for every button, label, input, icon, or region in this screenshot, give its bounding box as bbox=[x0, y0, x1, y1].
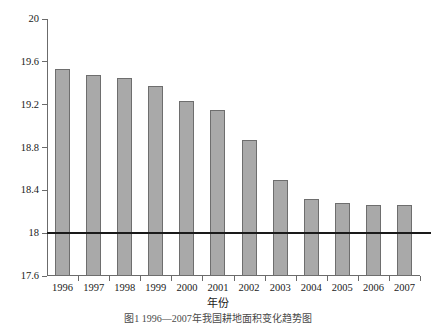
bar bbox=[86, 75, 101, 276]
y-tick-mark bbox=[42, 147, 47, 148]
x-tick-mark bbox=[202, 276, 203, 281]
x-tick-mark bbox=[140, 276, 141, 281]
bar bbox=[273, 180, 288, 276]
y-tick-label: 18 bbox=[0, 228, 39, 239]
y-tick-mark bbox=[42, 19, 47, 20]
x-tick-mark bbox=[109, 276, 110, 281]
bar bbox=[179, 101, 194, 276]
x-tick-mark bbox=[358, 276, 359, 281]
figure-caption: 图1 1996—2007年我国耕地面积变化趋势图 bbox=[0, 313, 436, 324]
y-tick-mark bbox=[42, 190, 47, 191]
bar bbox=[55, 69, 70, 276]
bar bbox=[397, 205, 412, 276]
reference-line bbox=[47, 232, 431, 234]
x-tick-label: 2007 bbox=[384, 283, 424, 294]
x-tick-mark bbox=[265, 276, 266, 281]
x-tick-mark bbox=[389, 276, 390, 281]
x-tick-mark bbox=[327, 276, 328, 281]
x-tick-mark bbox=[171, 276, 172, 281]
y-tick-label: 19.6 bbox=[0, 57, 39, 68]
y-tick-label: 20 bbox=[0, 14, 39, 25]
bar bbox=[304, 199, 319, 276]
y-tick-mark bbox=[42, 104, 47, 105]
bar bbox=[335, 203, 350, 276]
x-tick-mark bbox=[234, 276, 235, 281]
y-tick-label: 17.6 bbox=[0, 271, 39, 282]
x-tick-mark bbox=[78, 276, 79, 281]
x-tick-mark bbox=[420, 276, 421, 281]
x-tick-mark bbox=[296, 276, 297, 281]
bar bbox=[366, 205, 381, 276]
y-tick-mark bbox=[42, 61, 47, 62]
bar bbox=[148, 86, 163, 276]
bar bbox=[117, 78, 132, 276]
plot-area bbox=[47, 19, 420, 276]
x-axis-title: 年份 bbox=[0, 298, 436, 309]
y-tick-label: 19.2 bbox=[0, 100, 39, 111]
y-tick-mark bbox=[42, 276, 47, 277]
bar bbox=[242, 140, 257, 276]
y-tick-label: 18.8 bbox=[0, 143, 39, 154]
y-tick-label: 18.4 bbox=[0, 185, 39, 196]
bar bbox=[210, 110, 225, 276]
